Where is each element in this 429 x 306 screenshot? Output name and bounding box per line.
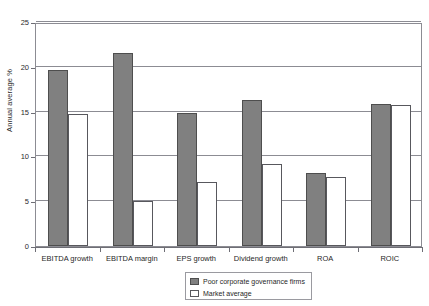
gridline bbox=[36, 200, 421, 201]
y-axis-tick-label: 0 bbox=[12, 243, 29, 251]
y-axis-tick-label: 25 bbox=[12, 19, 29, 27]
gridline bbox=[36, 155, 421, 156]
x-axis-category-label: ROIC bbox=[358, 255, 423, 263]
bar bbox=[133, 201, 153, 246]
y-axis-tick bbox=[31, 23, 35, 24]
gridline bbox=[36, 21, 421, 22]
bar bbox=[177, 113, 197, 246]
legend-item: Market average bbox=[190, 288, 307, 299]
x-axis-category-label: EBITDA growth bbox=[35, 255, 100, 263]
x-axis-tick bbox=[293, 248, 294, 252]
legend-item-label: Poor corporate governance firms bbox=[203, 278, 305, 285]
x-axis-category-label: Dividend growth bbox=[229, 255, 294, 263]
y-axis-tick bbox=[31, 202, 35, 203]
y-axis-tick bbox=[31, 68, 35, 69]
x-axis-tick bbox=[422, 248, 423, 252]
chart-legend: Poor corporate governance firms Market a… bbox=[185, 272, 312, 300]
y-axis-tick bbox=[31, 157, 35, 158]
bar bbox=[391, 105, 411, 246]
y-axis-tick-label: 10 bbox=[12, 153, 29, 161]
x-axis-tick bbox=[229, 248, 230, 252]
y-axis-tick-label: 5 bbox=[12, 198, 29, 206]
y-axis-tick-label: 15 bbox=[12, 109, 29, 117]
x-axis-tick bbox=[164, 248, 165, 252]
gridline bbox=[36, 111, 421, 112]
x-axis-category-label: EPS growth bbox=[164, 255, 229, 263]
bar bbox=[306, 173, 326, 246]
bar bbox=[262, 164, 282, 246]
bar bbox=[326, 177, 346, 246]
x-axis-tick bbox=[358, 248, 359, 252]
plot-area bbox=[35, 23, 422, 247]
y-axis-tick bbox=[31, 113, 35, 114]
legend-item-label: Market average bbox=[203, 290, 252, 297]
legend-swatch-icon bbox=[190, 290, 199, 297]
bar bbox=[197, 182, 217, 246]
y-axis-tick-label: 20 bbox=[12, 64, 29, 72]
bar bbox=[68, 114, 88, 246]
gridline bbox=[36, 66, 421, 67]
y-axis-title: Annual average % bbox=[5, 46, 14, 156]
bar bbox=[113, 53, 133, 246]
legend-item: Poor corporate governance firms bbox=[190, 276, 307, 287]
x-axis-category-label: ROA bbox=[293, 255, 358, 263]
x-axis-tick bbox=[35, 248, 36, 252]
x-axis-category-label: EBITDA margin bbox=[100, 255, 165, 263]
x-axis-tick bbox=[100, 248, 101, 252]
legend-swatch-icon bbox=[190, 278, 199, 285]
bar-chart: Annual average % 0510152025 EBITDA growt… bbox=[0, 0, 429, 306]
bar bbox=[242, 100, 262, 246]
bar bbox=[48, 70, 68, 246]
bar bbox=[371, 104, 391, 246]
